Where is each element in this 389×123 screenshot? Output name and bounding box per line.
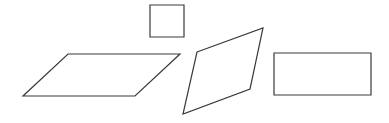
rhombus-shape [183, 28, 263, 114]
parallelogram-shape [23, 54, 180, 96]
diagram-svg [0, 0, 389, 123]
square-shape [150, 5, 184, 37]
shapes-diagram [0, 0, 389, 123]
rectangle-shape [274, 53, 371, 95]
